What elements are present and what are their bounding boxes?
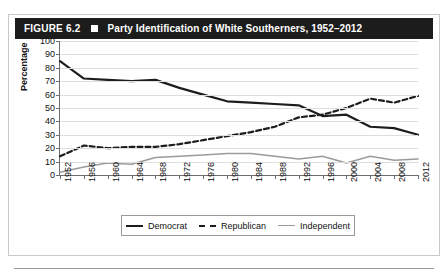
gridline	[60, 135, 418, 136]
y-tick-mark	[56, 162, 60, 163]
x-tick-label: 1972	[182, 162, 192, 182]
legend-item-independent: Independent	[278, 221, 350, 231]
gridline	[60, 95, 418, 96]
legend-swatch-independent-icon	[278, 225, 295, 226]
x-tick-label: 2000	[349, 162, 359, 182]
y-tick-label: 70	[45, 76, 55, 86]
x-tick-label: 1996	[326, 162, 336, 182]
footer-rule	[14, 268, 434, 269]
y-tick-mark	[56, 81, 60, 82]
y-tick-label: 20	[45, 143, 55, 153]
gridline	[60, 121, 418, 122]
x-tick-label: 1960	[111, 162, 121, 182]
x-tick-label: 1968	[158, 162, 168, 182]
y-axis-label: Percentage	[19, 77, 29, 91]
gridline	[60, 41, 418, 42]
y-tick-label: 60	[45, 90, 55, 100]
x-tick-label: 2008	[397, 162, 407, 182]
legend-swatch-democrat-icon	[126, 225, 143, 227]
figure-number: FIGURE 6.2	[24, 23, 80, 34]
gridline	[60, 81, 418, 82]
y-tick-label: 0	[50, 170, 55, 180]
gridline	[60, 68, 418, 69]
y-tick-mark	[56, 54, 60, 55]
x-tick-label: 1980	[230, 162, 240, 182]
x-tick-label: 1964	[135, 162, 145, 182]
gridline	[60, 108, 418, 109]
figure-title: Party Identification of White Southerner…	[107, 23, 362, 34]
series-line-democrat	[60, 61, 418, 135]
y-tick-mark	[56, 95, 60, 96]
gridline	[60, 148, 418, 149]
y-tick-label: 100	[40, 36, 55, 46]
x-tick-label: 1952	[63, 162, 73, 182]
y-tick-label: 80	[45, 63, 55, 73]
legend-item-democrat: Democrat	[126, 221, 187, 231]
legend-label-democrat: Democrat	[148, 221, 187, 231]
y-tick-mark	[56, 121, 60, 122]
legend-item-republican: Republican	[199, 221, 266, 231]
plot-region	[59, 41, 418, 176]
x-tick-label: 1992	[302, 162, 312, 182]
legend-label-republican: Republican	[221, 221, 266, 231]
figure-title-bar: FIGURE 6.2 Party Identification of White…	[15, 18, 433, 39]
series-line-republican	[60, 96, 418, 156]
y-tick-mark	[56, 108, 60, 109]
x-tick-label: 1988	[278, 162, 288, 182]
y-tick-mark	[56, 135, 60, 136]
x-tick-label: 2012	[421, 162, 431, 182]
y-tick-mark	[56, 68, 60, 69]
x-tick-label: 1956	[87, 162, 97, 182]
x-tick-label: 1976	[206, 162, 216, 182]
x-tick-mark	[418, 175, 419, 179]
square-bullet-icon	[91, 25, 98, 32]
y-tick-label: 90	[45, 49, 55, 59]
figure-container: FIGURE 6.2 Party Identification of White…	[8, 14, 440, 256]
gridline	[60, 54, 418, 55]
y-tick-label: 10	[45, 157, 55, 167]
legend-label-independent: Independent	[300, 221, 350, 231]
chart-legend: Democrat Republican Independent	[121, 215, 355, 236]
y-tick-label: 30	[45, 130, 55, 140]
y-tick-mark	[56, 148, 60, 149]
x-tick-label: 2004	[373, 162, 383, 182]
legend-swatch-republican-icon	[199, 225, 216, 227]
x-axis-ticks: 1952195619601964196819721976198019841988…	[59, 176, 417, 216]
y-tick-label: 40	[45, 116, 55, 126]
y-axis-ticks: 1009080706050403020100	[31, 41, 55, 175]
y-tick-mark	[56, 41, 60, 42]
x-tick-label: 1984	[254, 162, 264, 182]
y-tick-label: 50	[45, 103, 55, 113]
